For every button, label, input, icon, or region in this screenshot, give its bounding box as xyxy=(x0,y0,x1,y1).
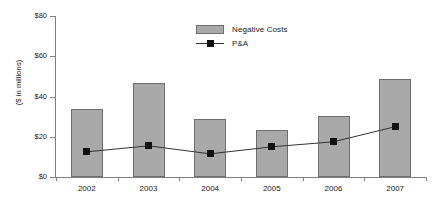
x-axis-tick-label: 2002 xyxy=(57,184,117,193)
y-axis-tick-label: $80 xyxy=(7,11,47,20)
chart-container: ($ in millions) $0$20$40$60$80 200220032… xyxy=(0,0,439,206)
legend-item-negative-costs: Negative Costs xyxy=(196,22,288,36)
bar xyxy=(133,83,165,177)
x-axis-tick-label: 2003 xyxy=(119,184,179,193)
bar xyxy=(71,109,103,177)
x-axis-tick-label: 2005 xyxy=(242,184,302,193)
legend-square-marker xyxy=(207,40,214,47)
y-axis-tick-label: $40 xyxy=(7,92,47,101)
x-axis-tick xyxy=(364,177,365,181)
legend-swatch-bar-icon xyxy=(196,25,224,34)
x-axis-tick xyxy=(179,177,180,181)
data-point-marker xyxy=(83,148,90,155)
x-axis-tick-label: 2004 xyxy=(180,184,240,193)
data-point-marker xyxy=(268,143,275,150)
x-axis-tick xyxy=(56,177,57,181)
chart-legend: Negative Costs P&A xyxy=(196,22,288,50)
y-axis-tick xyxy=(50,97,55,98)
y-axis-title: ($ in millions) xyxy=(14,23,23,143)
bar xyxy=(256,130,288,177)
x-axis-tick xyxy=(241,177,242,181)
y-axis-tick-label: $20 xyxy=(7,132,47,141)
data-point-marker xyxy=(207,150,214,157)
bar xyxy=(318,116,350,177)
y-axis-tick xyxy=(50,16,55,17)
bar xyxy=(194,119,226,177)
x-axis-tick xyxy=(426,177,427,181)
data-point-marker xyxy=(330,138,337,145)
y-axis-tick-label: $60 xyxy=(7,51,47,60)
legend-swatch-line-marker-icon xyxy=(196,39,224,48)
x-axis-tick-label: 2006 xyxy=(304,184,364,193)
y-axis-tick-label: $0 xyxy=(7,172,47,181)
legend-label-pa: P&A xyxy=(232,39,248,48)
data-point-marker xyxy=(145,142,152,149)
x-axis-tick-label: 2007 xyxy=(365,184,425,193)
legend-label-negative-costs: Negative Costs xyxy=(232,25,288,34)
x-axis-tick xyxy=(118,177,119,181)
legend-item-pa: P&A xyxy=(196,36,288,50)
x-axis-tick xyxy=(303,177,304,181)
y-axis-line xyxy=(55,16,56,177)
y-axis-tick xyxy=(50,56,55,57)
data-point-marker xyxy=(392,123,399,130)
y-axis-tick xyxy=(50,137,55,138)
y-axis-tick xyxy=(50,177,55,178)
